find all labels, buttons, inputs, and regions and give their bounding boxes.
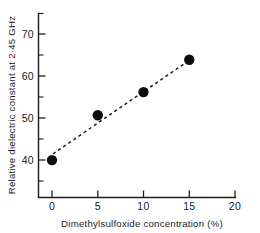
x-tick-label-20: 20: [229, 200, 241, 212]
scatter-plot: 70 60 50 40 0 5 10 15 20: [0, 0, 260, 233]
data-point: [47, 155, 57, 165]
x-axis-tick-labels: 0 5 10 15 20: [49, 200, 241, 212]
chart-figure: 70 60 50 40 0 5 10 15 20: [0, 0, 260, 233]
y-axis-title: Relative dielectric constant at 2·45 GHz: [6, 16, 17, 195]
axis-spines: [39, 14, 236, 198]
y-tick-label-60: 60: [22, 70, 34, 82]
trend-line: [53, 56, 195, 153]
y-axis-minor-ticks: [39, 14, 44, 182]
x-tick-label-10: 10: [137, 200, 149, 212]
data-point: [184, 55, 194, 65]
x-axis-title: Dimethylsulfoxide concentration (%): [61, 218, 223, 229]
x-tick-label-15: 15: [183, 200, 195, 212]
data-point: [93, 110, 103, 120]
x-tick-label-5: 5: [95, 200, 101, 212]
data-point: [138, 87, 148, 97]
y-tick-label-50: 50: [22, 112, 34, 124]
x-axis-major-ticks: [52, 191, 235, 198]
y-tick-label-40: 40: [22, 154, 34, 166]
y-axis-tick-labels: 70 60 50 40: [22, 28, 34, 166]
y-tick-label-70: 70: [22, 28, 34, 40]
x-tick-label-0: 0: [49, 200, 55, 212]
